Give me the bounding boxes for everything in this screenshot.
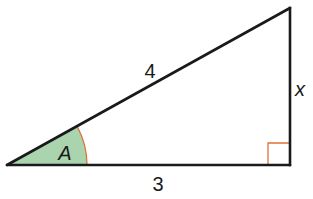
side-hypotenuse: [7, 8, 290, 165]
adjacent-label: 3: [152, 173, 163, 195]
angle-label: A: [57, 142, 71, 164]
right-angle-marker: [268, 143, 290, 165]
hypotenuse-label: 4: [144, 60, 155, 82]
opposite-label: x: [294, 78, 306, 100]
right-triangle-diagram: 4 x 3 A: [0, 0, 313, 199]
